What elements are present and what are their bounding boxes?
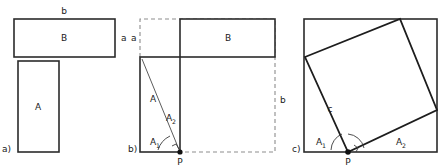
panel-b-label-b: B — [225, 33, 231, 43]
panel-b-label-p: P — [177, 157, 183, 167]
panel-c-label-p: P — [345, 157, 351, 167]
panel-b-marker: b) — [128, 144, 137, 154]
panel-b-dim-a: a — [131, 33, 137, 43]
panel-a: B A b a a) — [2, 6, 127, 154]
panel-c-marker: c) — [292, 144, 300, 154]
panel-c-label-a1-sub: 1 — [322, 142, 326, 149]
panel-c: c A 1 A 2 P c) — [292, 19, 437, 167]
panel-b-point-p-dot — [177, 149, 182, 154]
diagram-canvas: B A b a a) — [0, 0, 447, 168]
panel-b-label-a: A — [150, 94, 157, 104]
panel-a-marker: a) — [2, 144, 11, 154]
pythagoras-dissection-figure: B A b a a) — [0, 0, 447, 168]
panel-a-label-a: A — [35, 102, 42, 112]
panel-c-label-c: c — [328, 104, 333, 114]
panel-a-label-b: B — [61, 33, 67, 43]
panel-b-label-a1-sub: 1 — [156, 142, 160, 149]
panel-a-dim-b: b — [61, 6, 67, 16]
panel-a-dim-a: a — [121, 33, 127, 43]
panel-b-dim-b: b — [280, 95, 286, 105]
panel-c-point-p-dot — [345, 149, 351, 155]
panel-c-label-a2-sub: 2 — [402, 142, 406, 149]
panel-b-label-a2-sub: 2 — [172, 118, 176, 125]
panel-b: B A A 2 A 1 a b P b) — [128, 19, 286, 167]
